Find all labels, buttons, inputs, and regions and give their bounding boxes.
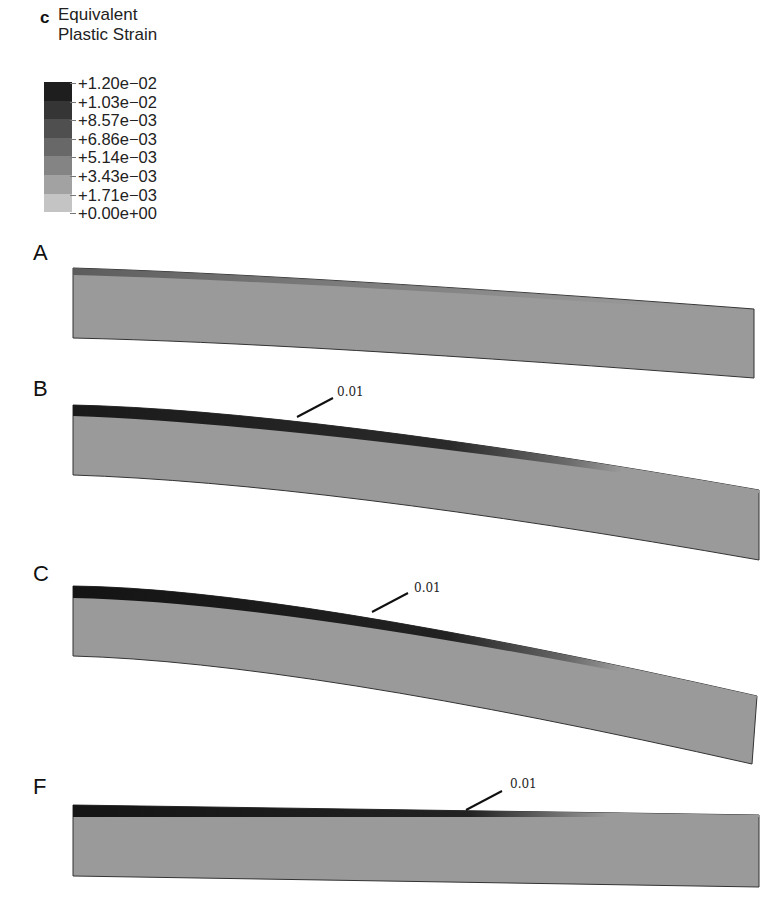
- callout-value: 0.01: [510, 777, 537, 791]
- beam-b: 0.01: [73, 385, 759, 560]
- beam-plots: 0.01 0.01 0.01: [0, 0, 784, 908]
- callout-leader-line: [297, 398, 333, 417]
- beam-c: 0.01: [73, 581, 757, 764]
- callout-leader-line: [372, 593, 408, 612]
- beam-f: 0.01: [73, 777, 759, 887]
- callout-value: 0.01: [414, 581, 441, 595]
- beam-a: [73, 268, 754, 378]
- callout-value: 0.01: [337, 385, 364, 399]
- callout-leader-line: [466, 791, 502, 810]
